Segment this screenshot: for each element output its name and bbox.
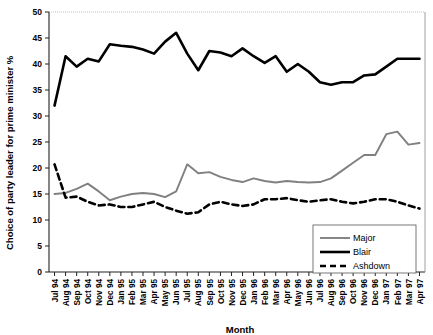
x-tick-label: Sep 94 [73, 279, 82, 306]
legend-label-ashdown: Ashdown [353, 261, 390, 271]
x-tick-label: Jun 95 [172, 279, 181, 305]
x-tick-label: Apr 96 [283, 279, 292, 305]
x-tick-label: Dec 95 [239, 279, 248, 306]
x-tick-label: Jul 95 [183, 279, 192, 303]
x-tick-label: Dec 94 [106, 279, 115, 306]
legend-label-blair: Blair [353, 247, 371, 257]
x-tick-label: Nov 95 [228, 279, 237, 306]
series-line-blair [55, 33, 420, 106]
y-tick-label: 30 [33, 111, 43, 121]
series-line-ashdown [55, 164, 420, 213]
data-series-group [55, 33, 420, 214]
x-tick-label: Feb 96 [261, 279, 270, 305]
x-tick-label: Jan 95 [117, 279, 126, 305]
y-tick-label: 0 [37, 267, 42, 277]
chart-svg: Choice of party leader for prime ministe… [0, 0, 433, 335]
x-tick-label: Aug 96 [327, 279, 336, 307]
x-tick-label: Sep 96 [338, 279, 347, 306]
y-tick-label: 50 [33, 7, 43, 17]
y-axis-title: Choice of party leader for prime ministe… [4, 55, 15, 250]
x-tick-label: Feb 95 [128, 279, 137, 305]
y-tick-label: 20 [33, 163, 43, 173]
x-tick-label: Jul 94 [51, 279, 60, 303]
x-tick-label: Oct 94 [84, 279, 93, 304]
x-tick-label: Jan 97 [382, 279, 391, 305]
x-tick-label: Mar 96 [272, 279, 281, 305]
x-tick-label: Aug 95 [194, 279, 203, 307]
x-axis-title: Month [226, 324, 255, 335]
y-axis-ticks: 05101520253035404550 [33, 7, 49, 277]
y-tick-label: 15 [33, 189, 43, 199]
x-tick-label: Sep 95 [206, 279, 215, 306]
y-tick-label: 40 [33, 59, 43, 69]
x-tick-label: Oct 95 [217, 279, 226, 304]
x-tick-label: Aug 94 [62, 279, 71, 307]
x-tick-label: Mar 95 [139, 279, 148, 305]
x-tick-label: Apr 95 [150, 279, 159, 305]
x-tick-label: Mar 97 [405, 279, 414, 305]
x-axis-tick-labels: Jul 94Aug 94Sep 94Oct 94Nov 94Dec 94Jan … [51, 279, 425, 307]
y-tick-label: 45 [33, 33, 43, 43]
y-tick-label: 35 [33, 85, 43, 95]
legend-label-major: Major [353, 233, 376, 243]
x-tick-label: Jul 96 [316, 279, 325, 303]
chart-legend: MajorBlairAshdown [313, 225, 416, 273]
y-tick-label: 5 [37, 241, 42, 251]
series-line-major [55, 132, 420, 201]
x-tick-label: Nov 96 [360, 279, 369, 306]
x-tick-label: Oct 96 [349, 279, 358, 304]
x-tick-label: Jan 96 [250, 279, 259, 305]
x-tick-label: Apr 97 [416, 279, 425, 305]
line-chart: Choice of party leader for prime ministe… [0, 0, 433, 335]
y-tick-label: 10 [33, 215, 43, 225]
x-tick-label: Nov 94 [95, 279, 104, 306]
x-tick-label: May 96 [294, 279, 303, 307]
x-tick-label: Jun 96 [305, 279, 314, 305]
x-tick-label: May 95 [161, 279, 170, 307]
x-tick-label: Feb 97 [394, 279, 403, 305]
x-tick-label: Dec 96 [371, 279, 380, 306]
y-tick-label: 25 [33, 137, 43, 147]
